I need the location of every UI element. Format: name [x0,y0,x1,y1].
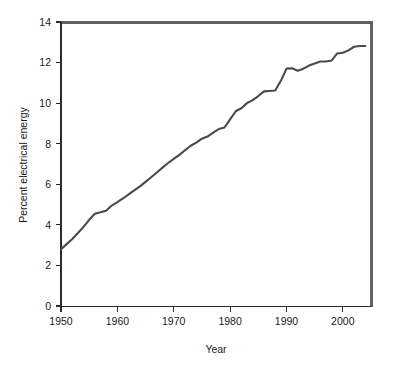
y-tick-label: 12 [39,56,51,68]
x-tick-label: 1980 [218,315,242,327]
y-axis-ticks [56,22,62,306]
x-axis-ticks [61,307,343,313]
chart-figure: 14 12 10 8 6 4 2 0 1950 1960 1970 1980 1… [0,0,403,373]
x-tick-label: 1950 [49,315,73,327]
line-chart: 14 12 10 8 6 4 2 0 1950 1960 1970 1980 1… [0,0,403,373]
y-tick-label: 10 [39,97,51,109]
y-tick-label: 0 [45,300,51,312]
x-tick-label: 1970 [162,315,186,327]
x-tick-label: 1960 [106,315,130,327]
x-tick-labels: 1950 1960 1970 1980 1990 2000 [49,315,354,327]
data-series-line [61,46,365,249]
y-tick-label: 4 [45,219,51,231]
y-tick-label: 6 [45,178,51,190]
y-tick-label: 14 [39,16,51,28]
y-tick-labels: 14 12 10 8 6 4 2 0 [39,16,51,312]
y-axis-title: Percent electrical energy [17,106,29,222]
plot-frame-heavy [61,22,371,307]
y-tick-label: 2 [45,259,51,271]
x-tick-label: 2000 [331,315,355,327]
y-tick-label: 8 [45,138,51,150]
x-axis-title: Year [205,343,227,355]
x-tick-label: 1990 [275,315,299,327]
